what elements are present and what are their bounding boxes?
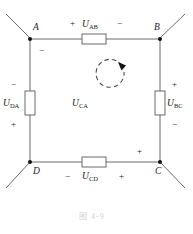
polarity-bc-plus: + (172, 80, 177, 89)
node-label-D: D (33, 167, 40, 177)
voltage-subscript-UDA: DA (10, 102, 19, 109)
voltage-label-UCA: UCA (72, 99, 88, 109)
loop-arrow-head (118, 62, 126, 71)
polarity-bc-minus: − (172, 120, 177, 129)
lead-A (6, 14, 30, 38)
voltage-subscript-UCD: CD (89, 175, 98, 182)
node-label-A: A (33, 23, 39, 33)
resistor-AB (82, 34, 106, 44)
voltage-label-UCD: UCD (82, 172, 98, 182)
voltage-symbol-UCA: U (72, 98, 79, 108)
node-dot-D (28, 160, 32, 164)
loop-wires (30, 39, 160, 162)
voltage-symbol-UDA: U (3, 98, 10, 108)
resistor-DA (25, 91, 35, 115)
polarity-da-plus: + (11, 120, 16, 129)
resistor-BC (155, 91, 165, 115)
voltage-symbol-UBC: U (167, 98, 174, 108)
voltage-subscript-UCA: CA (79, 102, 88, 109)
node-dot-B (158, 37, 162, 41)
voltage-label-UBC: UBC (167, 99, 183, 109)
lead-C (160, 162, 185, 188)
voltage-label-UDA: UDA (3, 99, 19, 109)
node-label-B: B (154, 23, 160, 33)
node-label-C: C (155, 167, 161, 177)
resistor-CD (82, 157, 106, 167)
voltage-symbol-UAB: U (82, 19, 89, 29)
voltage-subscript-UBC: BC (174, 102, 183, 109)
junction-nodes (28, 37, 162, 164)
resistor-boxes (25, 34, 165, 167)
voltage-symbol-UCD: U (82, 171, 89, 181)
polarity-da-top-minus: − (39, 46, 44, 55)
voltage-subscript-UAB: AB (89, 23, 98, 30)
figure-caption: 图 4-9 (79, 210, 105, 221)
node-dot-A (28, 37, 32, 41)
polarity-da-minus: − (11, 80, 16, 89)
polarity-ab-minus: − (117, 19, 122, 28)
polarity-cd-minus: − (65, 172, 70, 181)
loop-direction-arrow (96, 59, 126, 87)
lead-D (6, 162, 30, 188)
voltage-label-UAB: UAB (82, 20, 98, 30)
node-dot-C (158, 160, 162, 164)
lead-B (160, 14, 185, 38)
polarity-ab-plus: + (70, 19, 75, 28)
polarity-cd-plus: + (119, 172, 124, 181)
polarity-c-corner-plus: + (137, 147, 142, 156)
circuit-diagram (0, 0, 193, 234)
